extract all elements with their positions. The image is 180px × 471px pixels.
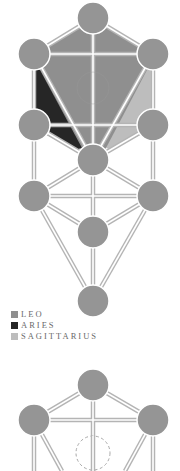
legend-item-aries: ARIES — [11, 320, 98, 331]
sephirah-kether-bottom — [77, 369, 109, 401]
sephirah-chesed — [137, 109, 169, 141]
tree-of-life-diagram-top — [0, 0, 180, 471]
sephirah-tiphareth — [77, 144, 109, 176]
legend-item-leo: LEO — [11, 309, 98, 320]
legend-label: LEO — [21, 309, 44, 320]
legend-label: ARIES — [21, 320, 56, 331]
leo-swatch-icon — [11, 311, 18, 318]
sagittarius-swatch-icon — [11, 333, 18, 340]
sephirah-binah — [18, 38, 50, 70]
legend-label: SAGITTARIUS — [21, 331, 98, 342]
sephirah-netzach — [137, 180, 169, 212]
legend: LEO ARIES SAGITTARIUS — [11, 309, 98, 342]
sephirah-chokmah-bottom — [137, 404, 169, 436]
sephirah-binah-bottom — [18, 404, 50, 436]
sephirah-chokmah — [137, 38, 169, 70]
aries-swatch-icon — [11, 322, 18, 329]
sephirah-hod — [18, 180, 50, 212]
sephirah-geburah — [18, 109, 50, 141]
sephirah-kether — [77, 2, 109, 34]
legend-item-sagittarius: SAGITTARIUS — [11, 331, 98, 342]
sephirah-yesod — [77, 216, 109, 248]
